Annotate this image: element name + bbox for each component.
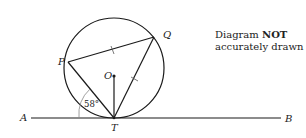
note-prefix: Diagram [215, 29, 262, 40]
label-o: O [104, 70, 112, 81]
label-t: T [111, 122, 119, 133]
circle-theorem-diagram: A B T P Q O 58° [0, 0, 306, 138]
tick-mark-pq [111, 46, 114, 54]
angle-label: 58° [84, 99, 99, 109]
center-point-o [112, 74, 115, 77]
note-line2: accurately drawn [215, 41, 303, 52]
point-t [113, 117, 116, 120]
note-emphasis: NOT [262, 29, 287, 40]
chord-pq [68, 37, 154, 62]
label-q: Q [163, 29, 171, 40]
disclaimer-note: Diagram NOT accurately drawn [215, 29, 303, 53]
label-p: P [57, 56, 65, 67]
chord-qt [114, 37, 154, 118]
label-b: B [284, 113, 292, 124]
label-a: A [19, 112, 27, 123]
